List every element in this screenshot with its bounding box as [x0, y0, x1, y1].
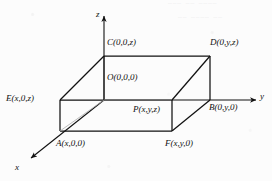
- label-P: P(x,y,z): [133, 105, 160, 114]
- edge-C-E: [60, 56, 104, 100]
- edge-D-P: [172, 56, 210, 100]
- label-A: A(x,0,0): [56, 139, 85, 148]
- x-axis-label: x: [15, 163, 19, 172]
- x-axis-line: [31, 100, 104, 158]
- z-axis-label: z: [96, 10, 100, 19]
- label-E: E(x,0,z): [6, 94, 34, 103]
- edge-F-B: [172, 100, 210, 131]
- y-axis-label: y: [260, 92, 264, 101]
- figure-canvas: ‾‾‾ ‾‾ ‾‾‾‾ ‾‾ ‾‾‾‾ ‾‾: [0, 0, 272, 181]
- label-O: O(0,0,0): [107, 73, 138, 82]
- label-C: C(0,0,z): [107, 38, 136, 47]
- edge-A-O-hidden: [60, 100, 104, 131]
- label-F: F(x,y,0): [165, 139, 193, 148]
- label-B: B(0,y,0): [209, 103, 238, 112]
- coordinate-box-figure: [0, 0, 272, 181]
- label-D: D(0,y,z): [210, 38, 239, 47]
